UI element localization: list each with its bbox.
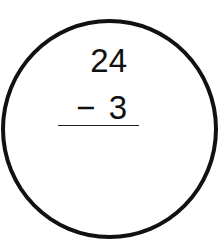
minuend: 24	[67, 44, 127, 77]
subtrahend: 3	[67, 91, 127, 124]
answer-line	[58, 125, 139, 126]
